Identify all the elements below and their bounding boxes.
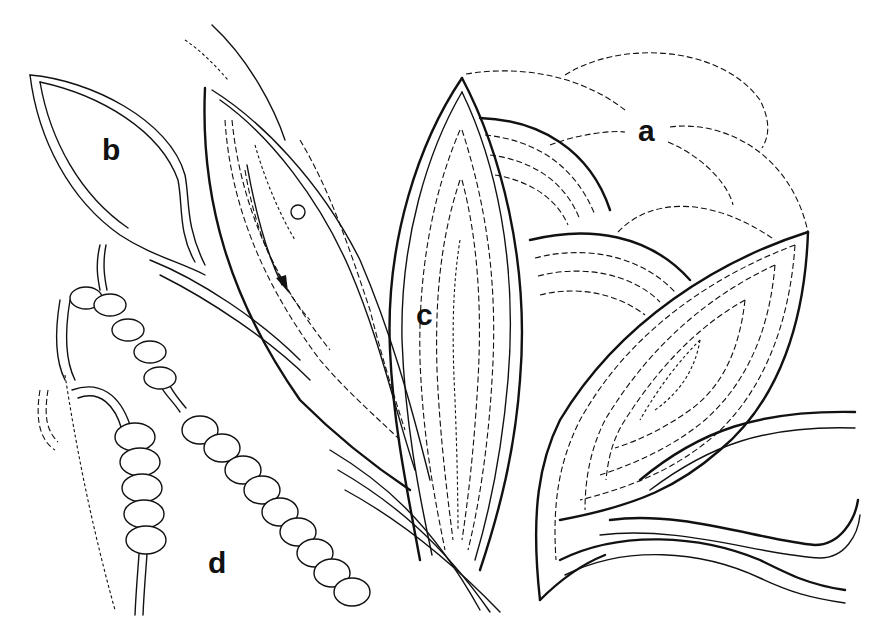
label-b: b	[102, 135, 120, 165]
label-d: d	[208, 548, 226, 578]
petal-a-dashed-outlines	[466, 53, 808, 240]
petal-c-couched	[390, 78, 522, 570]
arrow-icon	[276, 275, 288, 292]
chain-stitch-thread	[185, 25, 305, 240]
label-c: c	[416, 300, 433, 330]
illustration-canvas	[0, 0, 881, 638]
leaf-b-outline	[30, 75, 310, 380]
petal-right-couched	[536, 232, 808, 600]
label-a: a	[638, 116, 655, 146]
petal-back-couched	[480, 118, 690, 315]
bead-strings-d	[38, 245, 370, 615]
